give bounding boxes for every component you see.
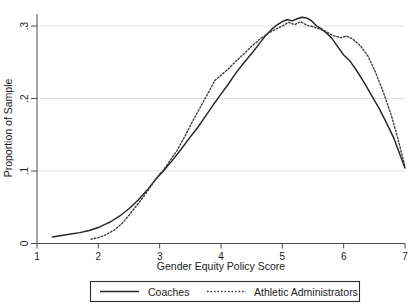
legend-label-coaches: Coaches — [148, 286, 189, 298]
series-line-athletic-administrators — [91, 22, 405, 240]
y-tick-label: 0 — [19, 240, 30, 246]
y-axis-ticks: 0.1.2.3 — [19, 21, 38, 246]
x-axis-ticks: 1234567 — [34, 244, 408, 262]
kernel-density-chart: 0.1.2.3 1234567 Proportion of Sample Gen… — [0, 0, 414, 308]
x-tick-label: 7 — [402, 251, 408, 262]
x-axis-title: Gender Equity Policy Score — [157, 260, 286, 272]
series-group — [52, 17, 405, 239]
y-tick-label: .1 — [19, 166, 30, 175]
y-tick-label: .2 — [19, 94, 30, 103]
y-axis-title: Proportion of Sample — [2, 79, 14, 178]
x-tick-label: 1 — [34, 251, 40, 262]
x-tick-label: 2 — [96, 251, 102, 262]
series-line-coaches — [52, 17, 405, 237]
x-tick-label: 6 — [341, 251, 347, 262]
gridlines — [37, 26, 405, 244]
legend: Coaches Athletic Administrators — [91, 282, 360, 302]
y-tick-label: .3 — [19, 21, 30, 30]
legend-label-athletic-administrators: Athletic Administrators — [254, 286, 358, 298]
axes — [37, 14, 405, 244]
chart-canvas: 0.1.2.3 1234567 Proportion of Sample Gen… — [0, 0, 414, 308]
